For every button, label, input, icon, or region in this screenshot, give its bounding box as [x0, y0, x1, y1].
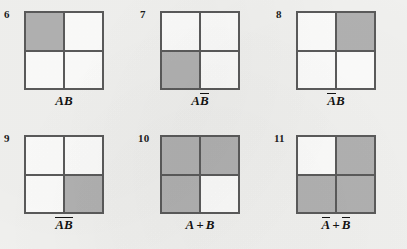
kmap-quadrant-bottom-left [162, 51, 200, 89]
figure-caption-9: AB [0, 218, 128, 232]
figure-caption-6: AB [0, 94, 128, 108]
kmap-quadrant-bottom-right [336, 51, 374, 89]
figure-8: 8AB [272, 0, 407, 124]
caption-term-B-negated: B [200, 94, 209, 108]
figure-caption-10: A+B [136, 218, 264, 232]
kmap-quadrant-bottom-right [200, 175, 238, 213]
kmap-square-11 [296, 135, 376, 214]
figure-caption-11: A+B [272, 218, 400, 232]
kmap-quadrant-bottom-right [336, 175, 374, 213]
kmap-quadrant-top-right [64, 13, 102, 51]
caption-operator: + [194, 218, 205, 232]
figure-index-10: 10 [138, 133, 149, 144]
kmap-quadrant-bottom-left [26, 51, 64, 89]
kmap-quadrant-top-left [162, 137, 200, 175]
kmap-quadrant-bottom-left [26, 175, 64, 213]
caption-term-A: A [55, 94, 64, 108]
kmap-quadrant-bottom-right [200, 51, 238, 89]
figure-11: 11A+B [272, 124, 407, 248]
kmap-quadrant-top-left [26, 13, 64, 51]
figure-index-9: 9 [4, 133, 10, 144]
kmap-quadrant-bottom-left [162, 175, 200, 213]
kmap-quadrant-top-left [162, 13, 200, 51]
kmap-quadrant-top-left [298, 137, 336, 175]
figure-6: 6AB [0, 0, 135, 124]
kmap-quadrant-top-right [336, 137, 374, 175]
caption-term-A-negated: A [55, 218, 64, 232]
figure-grid: 6AB7AB8AB9AB10A+B11A+B [0, 0, 407, 249]
figure-caption-7: AB [136, 94, 264, 108]
caption-term-A: A [191, 94, 200, 108]
caption-operator: + [330, 218, 341, 232]
kmap-quadrant-top-right [336, 13, 374, 51]
kmap-quadrant-top-left [26, 137, 64, 175]
kmap-quadrant-bottom-left [298, 51, 336, 89]
figure-9: 9AB [0, 124, 135, 248]
caption-term-A-negated: A [322, 218, 331, 232]
kmap-quadrant-top-right [200, 137, 238, 175]
caption-term-B: B [206, 218, 215, 232]
kmap-square-8 [296, 11, 376, 90]
kmap-quadrant-bottom-right [64, 51, 102, 89]
caption-term-B: B [64, 94, 73, 108]
figure-index-8: 8 [276, 9, 282, 20]
caption-term-B: B [336, 94, 345, 108]
caption-term-B-negated: B [342, 218, 351, 232]
caption-term-A: A [186, 218, 195, 232]
figure-10: 10A+B [136, 124, 271, 248]
caption-term-B-negated: B [64, 218, 73, 232]
kmap-square-9 [24, 135, 104, 214]
kmap-square-6 [24, 11, 104, 90]
kmap-quadrant-top-left [298, 13, 336, 51]
kmap-quadrant-bottom-left [298, 175, 336, 213]
figure-index-11: 11 [274, 133, 285, 144]
figure-index-7: 7 [140, 9, 146, 20]
kmap-quadrant-top-right [64, 137, 102, 175]
kmap-square-10 [160, 135, 240, 214]
caption-term-A-negated: A [327, 94, 336, 108]
figure-caption-8: AB [272, 94, 400, 108]
kmap-square-7 [160, 11, 240, 90]
kmap-quadrant-top-right [200, 13, 238, 51]
kmap-quadrant-bottom-right [64, 175, 102, 213]
figure-7: 7AB [136, 0, 271, 124]
figure-index-6: 6 [4, 9, 10, 20]
